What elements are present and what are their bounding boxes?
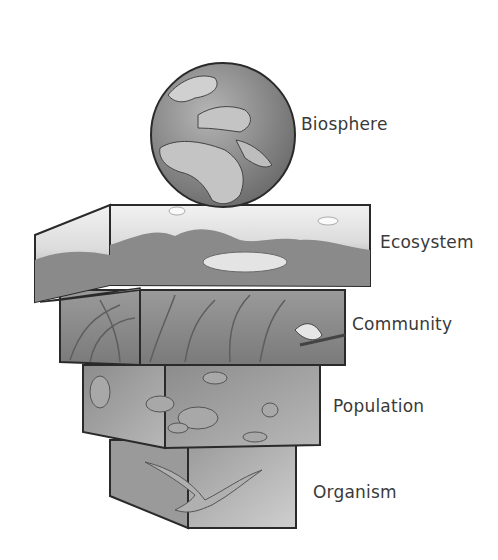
- label-ecosystem: Ecosystem: [380, 232, 474, 252]
- ecosystem-block: [35, 205, 370, 302]
- diagram-graphic: [0, 0, 498, 560]
- community-block: [40, 288, 345, 365]
- label-organism: Organism: [313, 482, 397, 502]
- label-biosphere: Biosphere: [301, 114, 388, 134]
- organism-block: [110, 440, 296, 528]
- biosphere-globe: [151, 63, 295, 207]
- label-population: Population: [333, 396, 424, 416]
- label-community: Community: [352, 314, 452, 334]
- ecology-levels-diagram: Biosphere Ecosystem Community Population…: [0, 0, 498, 560]
- population-block: [83, 365, 320, 448]
